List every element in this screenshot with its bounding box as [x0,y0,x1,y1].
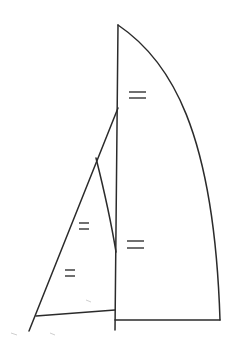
mainsail-leech-curve [118,25,220,320]
forestay-line [29,108,118,331]
equal-mark-mast-lower [127,241,144,248]
scan-smudge [11,333,17,335]
equal-mark-mast-upper [129,92,146,98]
jib-leech-line [96,158,116,252]
sail-diagram [0,0,236,360]
scan-smudge [86,300,91,302]
scan-smudge [50,333,55,335]
equal-mark-forestay-upper [79,223,89,229]
jib-foot-line [36,310,115,316]
mast-line [115,25,118,330]
equal-mark-forestay-lower [65,270,75,276]
